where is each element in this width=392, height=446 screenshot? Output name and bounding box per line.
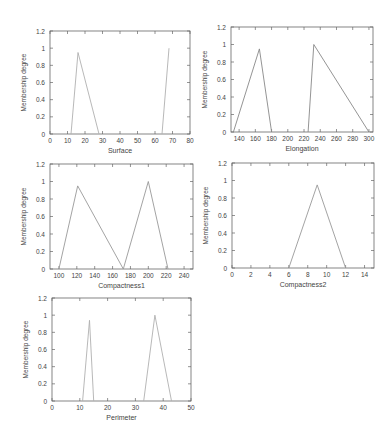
membership-function-line — [233, 49, 271, 132]
x-tick-label: 20 — [104, 404, 112, 411]
y-tick-label: 0 — [223, 265, 227, 272]
y-axis-label: Membership degree — [201, 50, 209, 108]
y-tick-label: 0.6 — [36, 213, 45, 220]
x-tick-label: 100 — [54, 272, 65, 279]
x-tick-label: 60 — [151, 137, 159, 144]
y-tick-label: 0.4 — [36, 231, 45, 238]
x-tick-label: 140 — [89, 272, 100, 279]
y-tick-label: 1 — [223, 177, 227, 184]
x-tick-label: 4 — [268, 271, 272, 278]
x-tick-label: 30 — [132, 404, 140, 411]
compactness1-chart: 00.20.40.60.811.210012014016018020022024… — [20, 161, 193, 291]
y-tick-label: 0.4 — [218, 230, 227, 237]
membership-function-line — [162, 48, 169, 134]
x-axis-label: Elongation — [285, 145, 318, 153]
y-tick-label: 0 — [41, 131, 45, 138]
x-tick-label: 160 — [250, 135, 261, 142]
y-axis-label: Membership degree — [202, 186, 210, 244]
x-tick-label: 14 — [361, 271, 369, 278]
x-tick-label: 10 — [76, 404, 84, 411]
x-tick-label: 50 — [134, 137, 142, 144]
x-tick-label: 40 — [160, 404, 168, 411]
y-tick-label: 0.8 — [217, 59, 226, 66]
x-tick-label: 160 — [107, 272, 118, 279]
x-tick-label: 40 — [116, 137, 124, 144]
x-tick-label: 10 — [323, 271, 331, 278]
y-tick-label: 0.8 — [36, 62, 45, 69]
x-tick-label: 240 — [315, 135, 326, 142]
membership-function-line — [289, 185, 346, 268]
y-tick-label: 0.4 — [217, 94, 226, 101]
y-tick-label: 1 — [43, 312, 47, 319]
y-tick-label: 1 — [222, 41, 226, 48]
x-tick-label: 180 — [266, 135, 277, 142]
x-axis-label: Perimeter — [106, 414, 137, 421]
y-axis-label: Membership degree — [20, 187, 28, 245]
y-tick-label: 0 — [43, 398, 47, 405]
membership-function-line — [308, 45, 369, 133]
y-tick-label: 1.2 — [36, 161, 45, 168]
y-tick-label: 0.2 — [36, 248, 45, 255]
compactness2-chart: 00.20.40.60.811.202468101214Compactness2… — [202, 160, 374, 290]
y-tick-label: 0.6 — [218, 212, 227, 219]
plot-frame — [50, 164, 193, 269]
elongation-chart: 00.20.40.60.811.214016018020022024026028… — [201, 24, 375, 154]
x-tick-label: 0 — [50, 404, 54, 411]
x-tick-label: 12 — [342, 271, 350, 278]
y-tick-label: 0 — [41, 266, 45, 273]
plot-frame — [232, 163, 374, 268]
y-tick-label: 0.8 — [38, 329, 47, 336]
y-tick-label: 0.8 — [36, 196, 45, 203]
surface-chart: 00.20.40.60.811.201020304050607080Surfac… — [20, 28, 194, 155]
x-axis-label: Compactness1 — [98, 282, 145, 290]
membership-function-line — [144, 315, 172, 401]
y-axis-label: Membership degree — [20, 53, 28, 111]
membership-function-line — [71, 53, 99, 135]
y-tick-label: 0.4 — [38, 363, 47, 370]
x-tick-label: 80 — [186, 137, 194, 144]
y-tick-label: 0.2 — [36, 113, 45, 120]
x-tick-label: 200 — [282, 135, 293, 142]
x-tick-label: 20 — [81, 137, 89, 144]
x-axis-label: Surface — [108, 147, 132, 154]
membership-function-line — [83, 320, 94, 401]
y-tick-label: 0.2 — [218, 247, 227, 254]
y-tick-label: 0.6 — [38, 346, 47, 353]
y-tick-label: 1.2 — [38, 295, 47, 302]
perimeter-chart: 00.20.40.60.811.201020304050PerimeterMem… — [22, 295, 195, 422]
x-tick-label: 200 — [143, 272, 154, 279]
x-tick-label: 220 — [299, 135, 310, 142]
x-tick-label: 300 — [364, 135, 375, 142]
x-tick-label: 70 — [169, 137, 177, 144]
membership-function-line — [123, 182, 168, 270]
y-tick-label: 1.2 — [36, 28, 45, 35]
y-axis-label: Membership degree — [22, 320, 30, 378]
y-tick-label: 0.4 — [36, 96, 45, 103]
y-tick-label: 1.2 — [218, 160, 227, 167]
membership-function-charts: 00.20.40.60.811.201020304050607080Surfac… — [0, 0, 392, 446]
x-tick-label: 140 — [234, 135, 245, 142]
x-tick-label: 10 — [64, 137, 72, 144]
y-tick-label: 1 — [41, 178, 45, 185]
x-tick-label: 280 — [347, 135, 358, 142]
x-tick-label: 220 — [161, 272, 172, 279]
y-tick-label: 0.2 — [38, 380, 47, 387]
x-axis-label: Compactness2 — [280, 281, 327, 289]
x-tick-label: 8 — [306, 271, 310, 278]
x-tick-label: 30 — [99, 137, 107, 144]
x-tick-label: 0 — [48, 137, 52, 144]
membership-function-line — [59, 186, 123, 269]
x-tick-label: 260 — [331, 135, 342, 142]
x-tick-label: 0 — [230, 271, 234, 278]
x-tick-label: 6 — [287, 271, 291, 278]
plot-frame — [52, 298, 191, 401]
y-tick-label: 1 — [41, 45, 45, 52]
plot-frame — [50, 31, 190, 134]
y-tick-label: 0.6 — [36, 79, 45, 86]
x-tick-label: 120 — [71, 272, 82, 279]
x-tick-label: 2 — [249, 271, 253, 278]
y-tick-label: 0.6 — [217, 76, 226, 83]
x-tick-label: 240 — [179, 272, 190, 279]
y-tick-label: 0 — [222, 129, 226, 136]
y-tick-label: 0.2 — [217, 111, 226, 118]
